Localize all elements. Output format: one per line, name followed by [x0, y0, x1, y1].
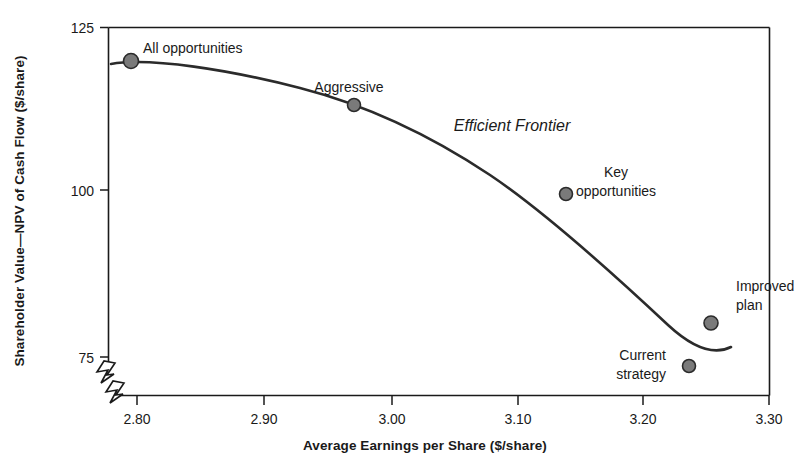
- x-tick-label-330: 3.30: [755, 411, 782, 427]
- label-current-strategy-line1: Current: [619, 347, 666, 363]
- x-tick-label-280: 2.80: [123, 411, 150, 427]
- label-key-opportunities-line2: opportunities: [576, 183, 656, 199]
- x-axis-break-icon: [106, 381, 124, 403]
- plot-axes: [109, 28, 770, 396]
- x-tick-labels: 2.80 2.90 3.00 3.10 3.20 3.30: [123, 411, 782, 427]
- label-current-strategy-line2: strategy: [616, 366, 666, 382]
- efficient-frontier-chart: 125 100 75 2.80 2.90 3.00 3.10 3.20 3.30…: [0, 0, 808, 468]
- label-all-opportunities: All opportunities: [143, 40, 243, 56]
- x-tick-label-320: 3.20: [629, 411, 656, 427]
- chart-figure: 125 100 75 2.80 2.90 3.00 3.10 3.20 3.30…: [0, 0, 808, 468]
- efficient-frontier-annotation: Efficient Frontier: [454, 117, 571, 134]
- marker-current-strategy[interactable]: [683, 360, 696, 373]
- marker-key-opportunities[interactable]: [560, 188, 573, 201]
- y-tick-marks: [100, 28, 109, 358]
- label-improved-plan-line1: Improved: [736, 278, 794, 294]
- y-axis-break-icon: [97, 361, 115, 383]
- efficient-frontier-curve: [111, 62, 731, 350]
- x-tick-label-290: 2.90: [250, 411, 277, 427]
- label-key-opportunities-line1: Key: [604, 164, 628, 180]
- y-tick-label-75: 75: [78, 350, 94, 366]
- axis-break-symbols: [97, 361, 124, 403]
- label-aggressive: Aggressive: [314, 79, 383, 95]
- marker-all-opportunities[interactable]: [124, 54, 139, 69]
- y-tick-label-100: 100: [71, 183, 95, 199]
- marker-aggressive[interactable]: [348, 99, 361, 112]
- data-point-labels: All opportunities Aggressive Key opportu…: [143, 40, 794, 382]
- label-improved-plan-line2: plan: [736, 297, 762, 313]
- x-tick-marks: [137, 396, 769, 406]
- x-axis-title: Average Earnings per Share ($/share): [303, 438, 547, 453]
- marker-improved-plan[interactable]: [704, 316, 718, 330]
- x-tick-label-310: 3.10: [504, 411, 531, 427]
- y-axis-title: Shareholder Value—NPV of Cash Flow ($/sh…: [12, 55, 27, 366]
- x-tick-label-300: 3.00: [378, 411, 405, 427]
- y-tick-labels: 125 100 75: [71, 20, 95, 366]
- data-point-markers: [124, 54, 719, 373]
- y-tick-label-125: 125: [71, 20, 95, 36]
